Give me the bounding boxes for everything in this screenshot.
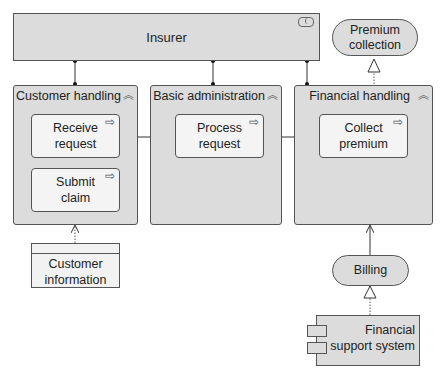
premium-collection-service[interactable]: Premium collection [332, 19, 418, 56]
component-tab-icon [307, 342, 327, 354]
data-object-customer-information[interactable]: Customer information [31, 243, 120, 288]
process-process-request[interactable]: Process request ⇨ [175, 114, 264, 158]
process-label: Submit claim [51, 174, 101, 206]
insurer-role[interactable]: Insurer [13, 13, 320, 61]
process-label: Process request [190, 120, 250, 152]
data-object-label: Customer information [32, 256, 119, 288]
group-title: Basic administration [151, 89, 265, 103]
data-object-header [32, 244, 119, 254]
premium-collection-label: Premium collection [333, 23, 417, 53]
function-icon: ︽ [123, 89, 134, 101]
billing-service[interactable]: Billing [332, 255, 409, 286]
billing-label: Billing [354, 263, 387, 278]
process-collect-premium[interactable]: Collect premium ⇨ [319, 114, 408, 158]
role-icon [298, 17, 314, 27]
group-title: Customer handling [14, 89, 121, 103]
component-financial-support-system[interactable]: Financial support system [316, 315, 420, 366]
process-label: Collect premium [334, 120, 394, 152]
function-icon: ︽ [267, 89, 278, 101]
function-icon: ︽ [418, 89, 429, 101]
process-receive-request[interactable]: Receive request ⇨ [31, 114, 120, 158]
process-arrow-icon: ⇨ [393, 116, 403, 128]
component-tab-icon [307, 325, 327, 337]
process-arrow-icon: ⇨ [105, 116, 115, 128]
group-title: Financial handling [295, 89, 410, 103]
insurer-label: Insurer [146, 30, 186, 45]
process-arrow-icon: ⇨ [249, 116, 259, 128]
process-arrow-icon: ⇨ [105, 170, 115, 182]
component-label: Financial support system [325, 322, 415, 354]
process-submit-claim[interactable]: Submit claim ⇨ [31, 168, 120, 212]
process-label: Receive request [46, 120, 106, 152]
